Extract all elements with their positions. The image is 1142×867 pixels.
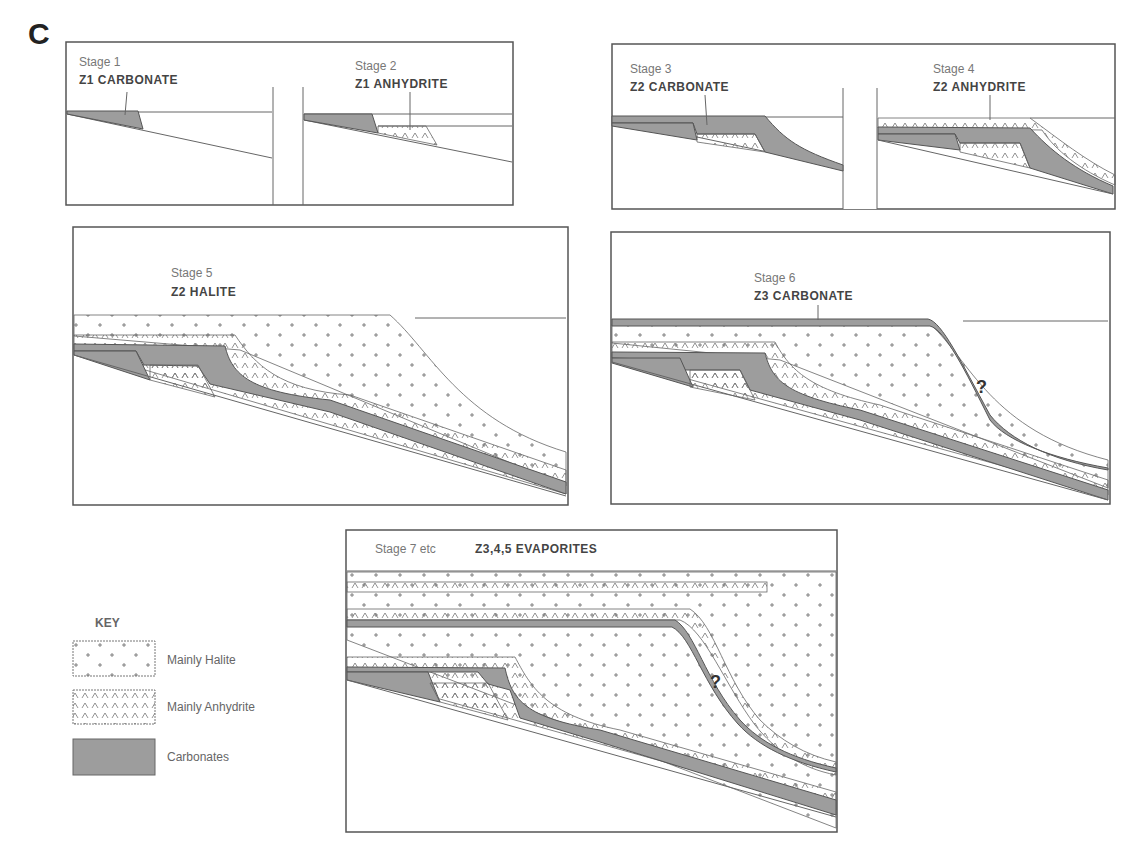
panel-stage-6: Stage 6 Z3 CARBONATE ? <box>611 232 1110 504</box>
legend-anhydrite-label: Mainly Anhydrite <box>167 700 255 714</box>
stage-2-label: Stage 2 <box>355 59 397 73</box>
panel-stage-7: Stage 7 etc Z3,4,5 EVAPORITES ? <box>346 530 837 832</box>
stage-1-title: Z1 CARBONATE <box>79 73 178 87</box>
stage-7-title: Z3,4,5 EVAPORITES <box>475 542 597 556</box>
stage-6-label: Stage 6 <box>754 271 796 285</box>
panel-letter: C <box>28 17 50 50</box>
panel-stage-1-2: Stage 1 Z1 CARBONATE Stage 2 Z1 ANHYDRIT… <box>66 42 513 205</box>
carbonates-swatch <box>73 739 155 775</box>
legend-title: KEY <box>95 616 120 630</box>
question-mark-label: ? <box>976 377 987 397</box>
stage-6-title: Z3 CARBONATE <box>754 289 853 303</box>
legend: KEY Mainly Halite Mainly Anhydrite Carbo… <box>73 616 255 775</box>
stage-4-title: Z2 ANHYDRITE <box>933 80 1026 94</box>
panel-stage-3-4: Stage 3 Z2 CARBONATE Stage 4 Z2 ANHYDRIT… <box>612 44 1115 209</box>
question-mark-label-2: ? <box>710 672 721 692</box>
halite-swatch <box>73 641 155 676</box>
stage-2-title: Z1 ANHYDRITE <box>355 77 448 91</box>
stage-5-label: Stage 5 <box>171 266 213 280</box>
legend-carbonates-label: Carbonates <box>167 750 229 764</box>
stage-1-label: Stage 1 <box>79 55 121 69</box>
legend-halite-label: Mainly Halite <box>167 653 236 667</box>
stage-3-label: Stage 3 <box>630 62 672 76</box>
panel-stage-5: Stage 5 Z2 HALITE <box>73 227 568 505</box>
anhydrite-swatch <box>73 690 155 724</box>
stage-7-label: Stage 7 etc <box>375 542 436 556</box>
stage-3-title: Z2 CARBONATE <box>630 80 729 94</box>
stage-4-label: Stage 4 <box>933 62 975 76</box>
evaporite-stages-diagram: C Stage 1 Z1 CARBONATE Stage 2 Z1 ANHYDR… <box>0 0 1142 867</box>
stage-5-title: Z2 HALITE <box>171 285 236 299</box>
